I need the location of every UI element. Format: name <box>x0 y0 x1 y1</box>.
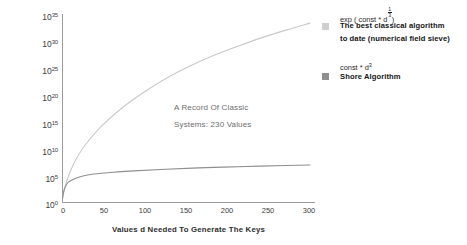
y-tick-exponent: 0 <box>55 200 58 206</box>
y-tick-exponent: 15 <box>52 120 58 126</box>
y-axis-tick: 1015 <box>42 120 58 131</box>
plot-annotation: A Record Of Classic Systems: 230 Values <box>174 99 251 133</box>
legend-entry-shor[interactable]: const * d3 Shore Algorithm <box>322 59 464 84</box>
y-axis-tick: 1020 <box>42 93 58 104</box>
y-axis-tick: 105 <box>45 174 58 185</box>
fraction-denominator: 3 <box>388 13 392 18</box>
series-line-shor <box>62 165 310 202</box>
y-tick-exponent: 10 <box>52 147 58 153</box>
legend-entry-classical[interactable]: exp ( const * d13) The best classical al… <box>322 8 464 45</box>
legend-swatch-shor <box>322 73 329 80</box>
x-axis-tick: 200 <box>221 206 234 215</box>
legend-formula-classical: exp ( const * d13) <box>340 8 464 20</box>
legend-label-line-1: The best classical algorithm <box>340 20 464 33</box>
legend-formula-shor: const * d3 <box>340 59 464 71</box>
legend-label-line-2: to date (numerical field sieve) <box>340 33 464 46</box>
chart-root: 1035 1030 1025 1020 1015 1010 105 100 Nu… <box>0 0 467 245</box>
legend-label-line-1: Shore Algorithm <box>340 71 464 84</box>
x-axis-tick: 100 <box>139 206 152 215</box>
chart-legend: exp ( const * d13) The best classical al… <box>322 8 464 95</box>
annotation-line-2: Systems: 230 Values <box>174 116 251 133</box>
x-axis-tick: 300 <box>303 206 316 215</box>
y-tick-exponent: 25 <box>52 66 58 72</box>
y-tick-exponent: 30 <box>52 39 58 45</box>
y-tick-exponent: 5 <box>55 174 58 180</box>
x-axis-tick: 150 <box>180 206 193 215</box>
x-axis-label: Values d Needed To Generate The Keys <box>62 225 315 234</box>
y-axis-tick: 1030 <box>42 39 58 50</box>
x-axis-tick: 250 <box>262 206 275 215</box>
x-axis-tick: 50 <box>100 206 108 215</box>
legend-label-shor: Shore Algorithm <box>340 71 464 84</box>
y-axis-tick-group: 1035 1030 1025 1020 1015 1010 105 100 <box>0 0 58 245</box>
x-axis-tick: 0 <box>61 206 65 215</box>
x-axis-line <box>62 202 315 203</box>
y-axis-tick: 1025 <box>42 66 58 77</box>
legend-swatch-classical <box>322 23 329 30</box>
legend-formula-exponent: 3 <box>369 62 372 68</box>
y-axis-tick: 1035 <box>42 12 58 23</box>
legend-label-classical: The best classical algorithm to date (nu… <box>340 20 464 45</box>
fraction-one-third: 13 <box>388 7 392 18</box>
y-tick-exponent: 35 <box>52 12 58 18</box>
y-axis-tick: 100 <box>45 200 58 211</box>
y-tick-exponent: 20 <box>52 93 58 99</box>
y-axis-tick: 1010 <box>42 147 58 158</box>
annotation-line-1: A Record Of Classic <box>174 99 251 116</box>
